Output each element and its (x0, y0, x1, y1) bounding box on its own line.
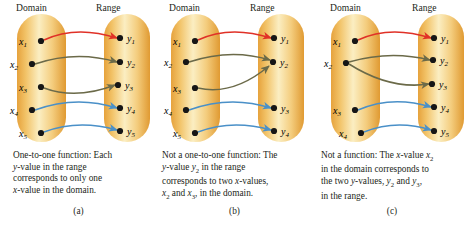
caption-a: One-to-one function: Each y-value in the… (0, 150, 178, 196)
domain-capsule-b (171, 14, 220, 142)
caption-c: Not a function: The x-value x2 in the do… (312, 150, 472, 202)
range-dot-y3 (429, 81, 435, 87)
domain-dot-x3 (352, 107, 358, 113)
range-dot-y1 (117, 35, 123, 41)
range-dot-y4 (117, 105, 123, 111)
range-dot-y3 (271, 105, 277, 111)
domain-dot-x4 (183, 107, 189, 113)
range-dot-y2 (117, 59, 123, 65)
domain-dot-x1 (192, 38, 198, 44)
range-dot-y4 (431, 104, 437, 110)
domain-capsule-c (331, 14, 380, 142)
function-mapping-figure: Domain Range (0, 0, 472, 236)
domain-dot-x4 (358, 130, 364, 136)
range-dot-y2 (430, 57, 436, 63)
range-dot-y1 (431, 35, 437, 41)
domain-dot-x2 (183, 59, 189, 65)
caption-a-line-2: corresponds to only one (13, 173, 170, 185)
caption-b-line-0: Not a one-to-one function: The (162, 150, 317, 162)
domain-dot-x2 (29, 61, 35, 67)
range-dot-y5 (431, 128, 437, 134)
domain-dot-x3 (38, 84, 44, 90)
caption-b-line-3: x2 and x3, in the domain. (162, 188, 317, 202)
caption-b-line-1: y-value y2 in the range (162, 162, 317, 176)
range-dot-y4 (271, 128, 277, 134)
panel-c: Domain Range (312, 0, 472, 236)
panel-c-diagram: x1 x2 x3 x4 y1 y2 y3 y4 y5 (312, 0, 472, 150)
range-dot-y3 (115, 82, 121, 88)
range-dot-y2 (270, 59, 276, 65)
domain-dot-x1 (38, 38, 44, 44)
caption-a-line-0: One-to-one function: Each (13, 150, 170, 162)
caption-c-line-0: Not a function: The x-value x2 (321, 150, 472, 164)
domain-dot-x5 (192, 130, 198, 136)
caption-b-line-2: corresponds to two x-values, (162, 176, 317, 188)
caption-c-line-2: the two y-values, y2 and y3, (321, 176, 472, 190)
caption-c-line-3: in the range. (321, 191, 472, 203)
caption-a-line-3: x-value in the domain. (13, 185, 170, 197)
panel-a-diagram: x1 x2 x3 x4 x5 y1 y2 y3 y4 y5 (0, 0, 157, 150)
domain-capsule-a (17, 14, 66, 142)
domain-dot-x3 (192, 85, 198, 91)
panel-b-diagram: x1 x2 x3 x4 x5 y1 y2 y3 y4 (157, 0, 312, 150)
caption-c-line-1: in the domain corresponds to (321, 164, 472, 176)
range-dot-y1 (271, 35, 277, 41)
panel-b: Domain Range (157, 0, 312, 236)
domain-dot-x1 (352, 38, 358, 44)
domain-dot-x2 (343, 60, 349, 66)
range-dot-y5 (117, 128, 123, 134)
caption-b: Not a one-to-one function: The y-value y… (157, 150, 321, 202)
panel-label-c: (c) (312, 206, 472, 216)
domain-dot-x5 (38, 130, 44, 136)
domain-dot-x4 (29, 107, 35, 113)
caption-a-line-1: y-value in the range (13, 162, 170, 174)
panel-a: Domain Range (0, 0, 157, 236)
